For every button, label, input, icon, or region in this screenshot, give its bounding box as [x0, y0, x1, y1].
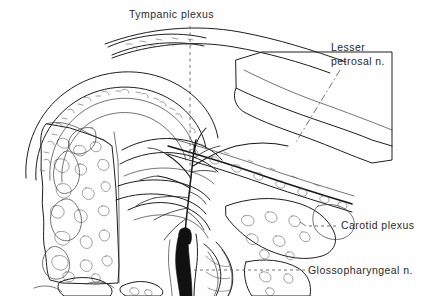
bone-edge-bottom-right: [244, 260, 310, 296]
anatomical-figure: .ln { fill:none; stroke:#1f1f1f; stroke-…: [0, 0, 430, 296]
tympanic-cavity: [116, 138, 222, 238]
leader-lesser-petrosal: [296, 70, 340, 142]
label-glossopharyngeal: Glossopharyngeal n.: [308, 264, 413, 278]
label-carotid-plexus: Carotid plexus: [341, 219, 414, 233]
glossopharyngeal-trunk: [169, 228, 198, 296]
eustachian-tube: [204, 242, 233, 296]
label-lesser-petrosal: Lesser petrosal n.: [331, 41, 385, 68]
cancellous-bone-left: [41, 122, 119, 284]
trabecular-stipple-left: [50, 138, 112, 283]
bone-fragments-bottom-left: [34, 278, 163, 296]
label-lesser-petrosal-line-1: Lesser: [331, 41, 385, 55]
label-lesser-petrosal-line-2: petrosal n.: [331, 55, 385, 69]
label-tympanic-plexus: Tympanic plexus: [129, 8, 214, 22]
